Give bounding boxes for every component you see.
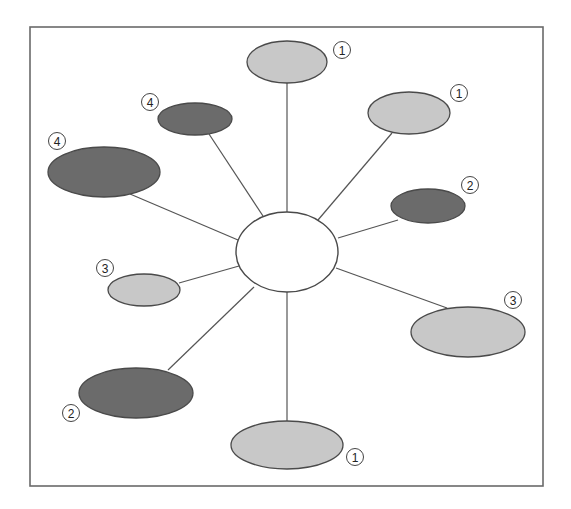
- node-upper-right: [368, 92, 450, 134]
- badge-number: 3: [102, 262, 109, 276]
- node-bottom: [231, 421, 343, 469]
- node-upper-left: [158, 103, 232, 135]
- badge-number: 2: [68, 407, 75, 421]
- badge-number: 1: [456, 87, 463, 101]
- badge-far-left: 4: [49, 133, 66, 150]
- badge-left: 3: [97, 260, 114, 277]
- hub-spoke-diagram: 114423321: [0, 0, 571, 509]
- node-lower-left: [79, 368, 193, 418]
- badge-number: 1: [352, 451, 359, 465]
- node-far-left: [48, 147, 160, 197]
- node-top: [247, 41, 327, 83]
- badge-right: 2: [462, 177, 479, 194]
- badge-number: 1: [339, 44, 346, 58]
- badge-upper-right: 1: [451, 85, 468, 102]
- badge-number: 4: [147, 96, 154, 110]
- badge-number: 3: [510, 294, 517, 308]
- badge-bottom: 1: [347, 449, 364, 466]
- node-lower-right: [411, 307, 525, 357]
- badge-number: 2: [467, 179, 474, 193]
- central-hub: [236, 212, 338, 292]
- badge-lower-right: 3: [505, 292, 522, 309]
- node-left: [108, 274, 180, 306]
- badge-upper-left: 4: [142, 94, 159, 111]
- badge-top: 1: [334, 42, 351, 59]
- badge-number: 4: [54, 135, 61, 149]
- node-right: [391, 189, 465, 223]
- badge-lower-left: 2: [63, 405, 80, 422]
